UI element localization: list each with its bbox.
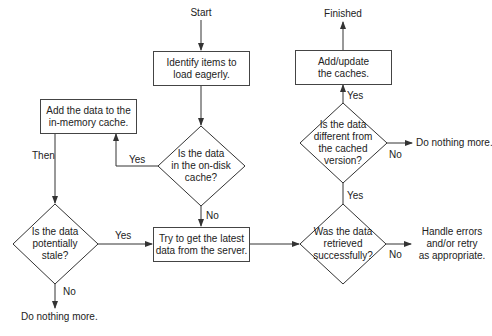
different-decision: Is the data different from the cached ve…: [314, 119, 373, 167]
retrieved-line-3: successfully?: [313, 250, 372, 262]
handle-line-2: and/or retry: [419, 238, 486, 250]
try-get-box: Try to get the latest data from the serv…: [153, 227, 250, 262]
on-disk-line-1: Is the data: [171, 148, 230, 160]
retrieved-line-1: Was the data: [313, 226, 372, 238]
retrieved-yes-label: Yes: [347, 190, 363, 202]
add-update-box: Add/update the caches.: [295, 50, 392, 85]
add-memory-line-1: Add the data to the: [46, 105, 131, 117]
add-update-line-2: the caches.: [318, 68, 369, 80]
try-get-line-1: Try to get the latest: [156, 233, 248, 245]
retrieved-no-label: No: [389, 249, 402, 261]
different-no-label: No: [389, 149, 402, 161]
handle-line-3: as appropriate.: [419, 250, 486, 262]
handle-line-1: Handle errors: [419, 226, 486, 238]
on-disk-line-2: in the on-disk: [171, 160, 230, 172]
different-yes-label: Yes: [347, 90, 363, 102]
identify-line-2: load eagerly.: [166, 69, 236, 81]
add-update-line-1: Add/update: [318, 56, 369, 68]
then-label: Then: [32, 150, 55, 162]
stale-line-1: Is the data: [32, 226, 79, 238]
retrieved-line-2: retrieved: [313, 238, 372, 250]
flowchart-canvas: Start Identify items to load eagerly. Is…: [0, 0, 492, 336]
stale-line-3: stale?: [32, 250, 79, 262]
retrieved-decision: Was the data retrieved successfully?: [313, 226, 372, 262]
start-label: Start: [190, 7, 211, 19]
different-line-3: the cached: [314, 143, 373, 155]
identify-line-1: Identify items to: [166, 57, 236, 69]
finished-label: Finished: [324, 8, 362, 20]
handle-errors-label: Handle errors and/or retry as appropriat…: [419, 226, 486, 262]
do-nothing-different-label: Do nothing more.: [416, 137, 492, 149]
different-line-4: version?: [314, 155, 373, 167]
add-memory-line-2: in-memory cache.: [46, 117, 131, 129]
do-nothing-stale-label: Do nothing more.: [21, 311, 98, 323]
on-disk-yes-label: Yes: [129, 154, 145, 166]
stale-line-2: potentially: [32, 238, 79, 250]
stale-no-label: No: [63, 286, 76, 298]
identify-items-box: Identify items to load eagerly.: [153, 51, 250, 86]
on-disk-decision: Is the data in the on-disk cache?: [171, 148, 230, 184]
try-get-line-2: data from the server.: [156, 245, 248, 257]
on-disk-line-3: cache?: [171, 172, 230, 184]
stale-decision: Is the data potentially stale?: [32, 226, 79, 262]
different-line-1: Is the data: [314, 119, 373, 131]
stale-yes-label: Yes: [115, 230, 131, 242]
different-line-2: different from: [314, 131, 373, 143]
on-disk-no-label: No: [206, 210, 219, 222]
add-memory-box: Add the data to the in-memory cache.: [40, 99, 137, 134]
